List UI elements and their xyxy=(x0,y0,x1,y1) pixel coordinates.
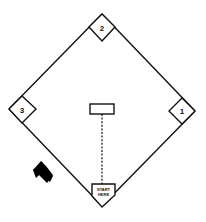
third-base: 3 xyxy=(9,96,36,123)
baseline-second-to-third xyxy=(9,14,102,109)
baseline-third-to-home xyxy=(9,109,102,206)
home-plate-label-line2: HERE xyxy=(98,192,109,197)
arrow-up-left-icon xyxy=(33,161,53,183)
second-base-label: 2 xyxy=(100,24,105,33)
first-base: 1 xyxy=(169,98,195,124)
second-base: 2 xyxy=(89,14,115,41)
pitchers-mound xyxy=(90,104,114,114)
first-base-label: 1 xyxy=(180,107,185,116)
third-base-label: 3 xyxy=(20,106,25,115)
home-plate: START HERE xyxy=(92,184,115,207)
baseball-diamond-diagram: 2 3 1 START HERE xyxy=(0,0,206,222)
baseline-first-to-home xyxy=(102,111,195,206)
baseline-second-to-first xyxy=(102,14,195,111)
